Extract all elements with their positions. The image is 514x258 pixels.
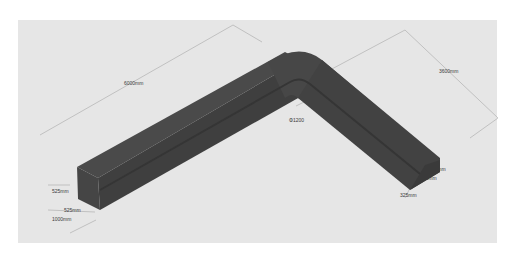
label-right-inner: 350mm bbox=[420, 175, 437, 181]
label-6000mm: 6000mm bbox=[124, 80, 143, 86]
label-right-width: 325mm bbox=[400, 192, 417, 198]
duct-short-leg bbox=[298, 60, 440, 190]
label-right-height: 700mm bbox=[429, 166, 446, 172]
label-3600mm: 3600mm bbox=[439, 68, 458, 74]
label-left-width: 525mm bbox=[64, 207, 81, 213]
label-bend-diameter: Φ1200 bbox=[289, 117, 304, 123]
label-left-outer: 1000mm bbox=[52, 216, 71, 222]
dimension-line-3600 bbox=[405, 30, 498, 118]
duct-elbow-drawing bbox=[0, 0, 514, 258]
label-left-height: 525mm bbox=[52, 188, 69, 194]
